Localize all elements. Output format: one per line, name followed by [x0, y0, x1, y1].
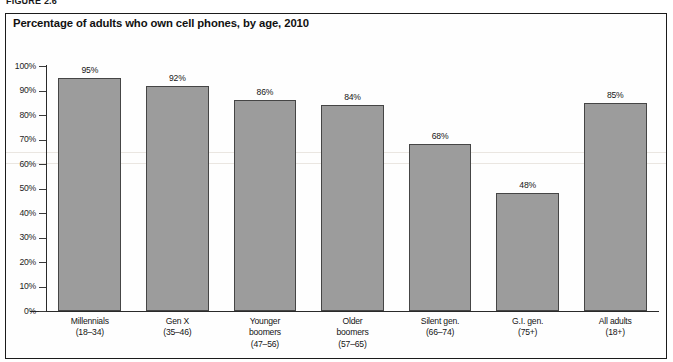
bar-value-label: 95%: [46, 65, 134, 75]
y-axis-label-text: 60%: [2, 159, 36, 169]
x-axis-category-line: (47–56): [221, 339, 309, 350]
x-axis-category-line: (18+): [571, 327, 659, 338]
y-axis-label-text: 20%: [2, 257, 36, 267]
y-axis-tick: [39, 164, 46, 165]
bar[interactable]: [58, 78, 121, 311]
y-axis-label-text: 100%: [2, 61, 36, 71]
y-axis-tick: [39, 287, 46, 288]
bar[interactable]: [321, 105, 384, 311]
y-axis-label-text: 30%: [2, 232, 36, 242]
y-axis-tick: [39, 66, 46, 67]
bar-value-label: 68%: [396, 131, 484, 141]
y-axis-label: 0%: [0, 306, 36, 316]
y-axis-label: 20%: [0, 257, 36, 267]
plot-area: 95%92%86%84%68%48%85%: [46, 66, 659, 311]
x-axis-category-line: (75+): [484, 327, 572, 338]
bar[interactable]: [496, 193, 559, 311]
y-axis-tick: [39, 311, 46, 312]
figure-number-caption: FIGURE 2.6: [6, 0, 57, 8]
x-axis-category-line: G.I. gen.: [484, 316, 572, 327]
x-axis-category-label: Millennials(18–34): [46, 316, 134, 339]
x-axis-category-label: G.I. gen.(75+): [484, 316, 572, 339]
x-axis-category-line: Millennials: [46, 316, 134, 327]
y-axis-label: 80%: [0, 110, 36, 120]
y-axis-label-text: 0%: [2, 306, 36, 316]
y-axis-tick: [39, 91, 46, 92]
y-axis-label: 10%: [0, 281, 36, 291]
x-axis-category-line: boomers: [309, 327, 397, 338]
y-axis-label-text: 40%: [2, 208, 36, 218]
x-axis-category-line: All adults: [571, 316, 659, 327]
bar[interactable]: [146, 86, 209, 311]
bar-value-label: 92%: [134, 73, 222, 83]
bar-value-label: 85%: [571, 90, 659, 100]
x-axis-category-label: Gen X(35–46): [134, 316, 222, 339]
y-axis-label-text: 80%: [2, 110, 36, 120]
y-axis-label-text: 10%: [2, 281, 36, 291]
y-axis-label: 30%: [0, 232, 36, 242]
y-axis-label-text: 70%: [2, 134, 36, 144]
x-axis-category-line: Gen X: [134, 316, 222, 327]
x-axis-line: [30, 311, 659, 312]
y-axis-tick: [39, 115, 46, 116]
x-axis-category-line: (18–34): [46, 327, 134, 338]
bar-value-label: 84%: [309, 92, 397, 102]
x-axis-category-line: (66–74): [396, 327, 484, 338]
x-axis-category-line: Younger: [221, 316, 309, 327]
bar[interactable]: [409, 144, 472, 311]
bar[interactable]: [584, 103, 647, 311]
y-axis-label: 100%: [0, 61, 36, 71]
x-axis-category-line: (57–65): [309, 339, 397, 350]
y-axis-label: 40%: [0, 208, 36, 218]
y-axis-label: 50%: [0, 183, 36, 193]
y-axis-label: 70%: [0, 134, 36, 144]
y-axis-label-text: 90%: [2, 85, 36, 95]
x-axis-category-label: All adults(18+): [571, 316, 659, 339]
bar-value-label: 48%: [484, 180, 572, 190]
chart-title: Percentage of adults who own cell phones…: [13, 17, 309, 29]
x-axis-category-label: Youngerboomers(47–56): [221, 316, 309, 350]
y-axis-tick: [39, 213, 46, 214]
x-axis-category-line: (35–46): [134, 327, 222, 338]
bar[interactable]: [234, 100, 297, 311]
x-axis-category-label: Silent gen.(66–74): [396, 316, 484, 339]
y-axis-tick: [39, 262, 46, 263]
x-axis-category-line: boomers: [221, 327, 309, 338]
y-axis-tick: [39, 189, 46, 190]
y-axis-label: 60%: [0, 159, 36, 169]
y-axis-tick: [39, 238, 46, 239]
x-axis-category-line: Older: [309, 316, 397, 327]
bar-value-label: 86%: [221, 87, 309, 97]
y-axis-tick: [39, 140, 46, 141]
x-axis-category-line: Silent gen.: [396, 316, 484, 327]
y-axis-label: 90%: [0, 85, 36, 95]
y-axis-label-text: 50%: [2, 183, 36, 193]
x-axis-category-label: Olderboomers(57–65): [309, 316, 397, 350]
